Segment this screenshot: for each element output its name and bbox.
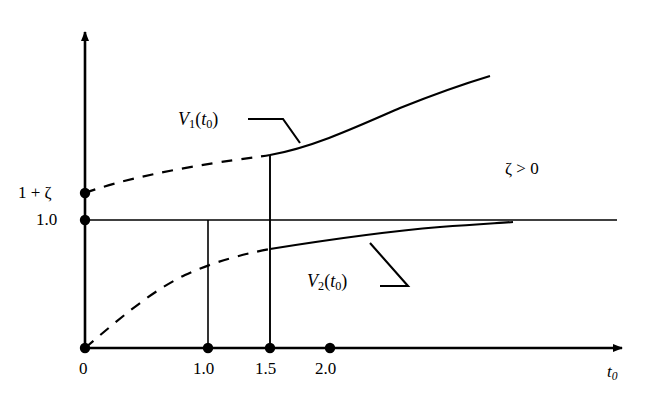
x-tick-marker-2-0	[325, 343, 335, 353]
x-tick-marker-1-5	[265, 343, 275, 353]
curve-v1-solid	[270, 76, 490, 155]
y-tick-label-1-0: 1.0	[36, 211, 57, 228]
figure-container: 1 + ζ 1.0 0 1.0 1.5 2.0 t0 V1(t0) V2(t0)…	[0, 0, 650, 403]
curve-label-v2: V2(t0)	[307, 272, 347, 293]
callout-leader-v1	[248, 119, 300, 143]
x-axis-label-subscript: 0	[612, 370, 618, 383]
x-tick-label-2-0: 2.0	[315, 360, 336, 377]
x-tick-label-1-5: 1.5	[255, 360, 276, 377]
x-axis-label: t0	[607, 363, 618, 383]
x-tick-label-1-0: 1.0	[193, 360, 214, 377]
curve-label-v2-paren-close: )	[341, 271, 347, 291]
curve-label-v1: V1(t0)	[178, 110, 218, 131]
x-tick-label-0: 0	[79, 360, 88, 377]
callout-leader-v2	[370, 243, 408, 286]
zeta-condition-annotation: ζ > 0	[505, 160, 539, 177]
curve-v2-dashed	[85, 249, 270, 348]
curve-label-v1-base: V	[178, 109, 189, 129]
x-tick-marker-0	[80, 343, 90, 353]
curve-v2-solid	[270, 222, 513, 249]
x-tick-marker-1-0	[203, 343, 213, 353]
plot-canvas	[0, 0, 650, 403]
y-tick-label-1-plus-zeta: 1 + ζ	[18, 184, 52, 201]
curve-label-v2-base: V	[307, 271, 318, 291]
curve-v1-dashed	[85, 155, 270, 193]
y-tick-marker-1-0	[80, 215, 90, 225]
curve-label-v1-paren-close: )	[212, 109, 218, 129]
y-tick-marker-1-plus-zeta	[80, 188, 90, 198]
